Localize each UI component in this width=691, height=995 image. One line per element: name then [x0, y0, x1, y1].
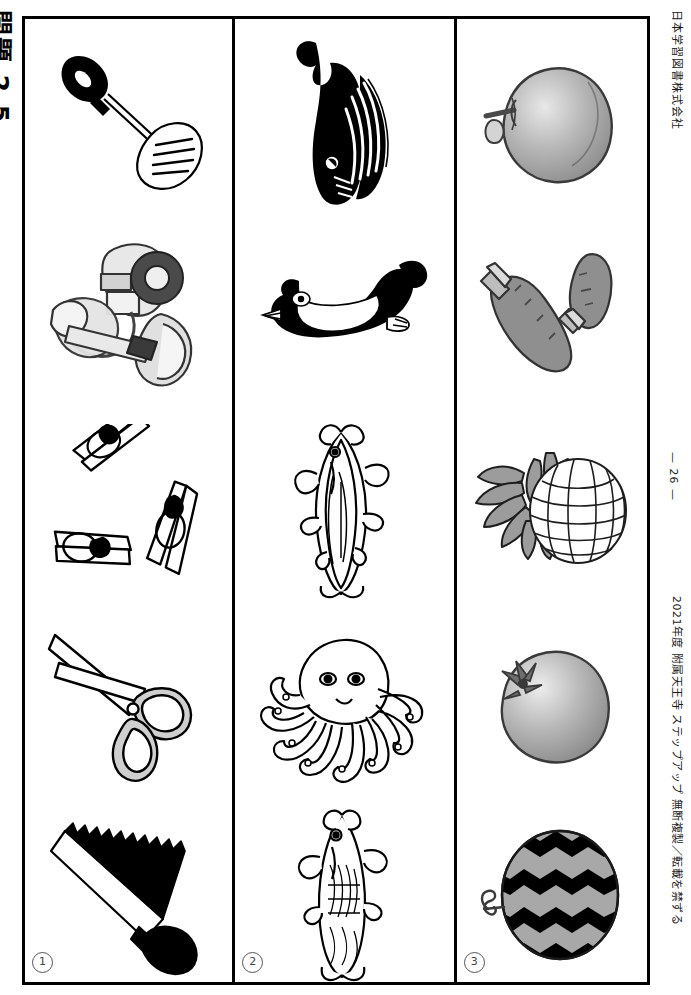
scissors-illustration — [25, 614, 232, 799]
pineapple-illustration — [457, 419, 647, 604]
page-title: 問題 2 5 — [0, 10, 20, 124]
penguin-illustration — [235, 224, 453, 409]
can-opener-illustration — [25, 224, 232, 409]
apple-illustration — [457, 31, 647, 216]
column-number-1: 1 — [32, 952, 53, 973]
carrots-illustration — [457, 224, 647, 409]
persimmon-illustration — [457, 614, 647, 799]
publisher-label: 日本学習図書株式会社 — [670, 10, 686, 130]
page-number: — 26 — — [667, 452, 680, 501]
column-fruits-vegetables: 3 — [457, 19, 647, 982]
saw-illustration — [25, 804, 232, 984]
watermelon-illustration — [457, 804, 647, 984]
column-number-3: 3 — [464, 952, 485, 973]
fish-illustration — [235, 804, 453, 984]
column-sea-creatures: 2 — [235, 19, 456, 982]
copyright-notice: 2021年度 附属天王寺 ステップアップ 無断複製／転載を禁ずる — [670, 596, 686, 925]
octopus-illustration — [235, 614, 453, 799]
clothespins-illustration — [25, 419, 232, 604]
whale-illustration — [235, 31, 453, 216]
problem-frame: 1 — [22, 16, 650, 985]
spatula-illustration — [25, 31, 232, 216]
column-tools: 1 — [25, 19, 235, 982]
tuna-illustration — [235, 419, 453, 604]
